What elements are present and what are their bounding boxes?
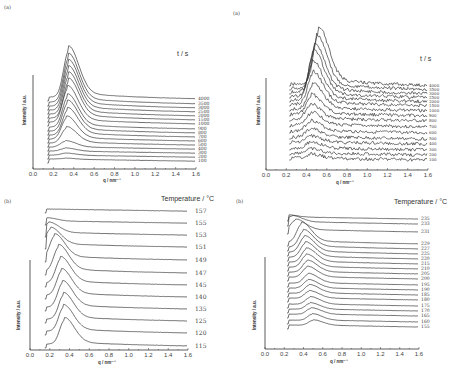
x-tick-label: 0.6 xyxy=(319,351,327,357)
series-line-400 xyxy=(47,141,195,152)
x-tick-label: 1.0 xyxy=(131,171,139,177)
x-tick-label: 0.4 xyxy=(299,351,307,357)
x-tick-label: 0.8 xyxy=(343,172,351,178)
y-axis-label: Intensity / a.u. xyxy=(16,300,21,330)
series-label: 231 xyxy=(421,229,430,234)
series-line-100 xyxy=(289,152,427,161)
x-tick-label: 0.6 xyxy=(90,171,98,177)
series-line-2500 xyxy=(47,66,195,114)
x-tick-label: 1.2 xyxy=(383,172,391,178)
x-tick-label: 0.6 xyxy=(85,352,93,358)
series-label: 400 xyxy=(429,141,437,146)
y-axis-label: Intensity / a.u. xyxy=(252,300,257,330)
x-tick-label: 0.8 xyxy=(105,352,113,358)
series-line-149 xyxy=(45,234,187,262)
x-tick-label: 0.2 xyxy=(280,351,288,357)
x-tick-label: 1.6 xyxy=(184,352,192,358)
series-line-135 xyxy=(45,281,187,312)
x-tick-label: 0.2 xyxy=(46,352,54,358)
series-label: 155 xyxy=(421,324,430,329)
series-line-600 xyxy=(47,116,195,143)
x-tick-label: 1.4 xyxy=(396,351,404,357)
x-tick-label: 1.6 xyxy=(424,172,432,178)
series-line-3000 xyxy=(47,59,195,110)
panel-label: (a) xyxy=(4,4,11,10)
series-label: 157 xyxy=(195,207,206,214)
series-line-1000 xyxy=(47,85,195,126)
series-line-229 xyxy=(287,222,418,246)
y-axis-label: Intensity / a.u. xyxy=(256,95,261,125)
series-line-185 xyxy=(287,284,418,297)
x-tick-label: 1.4 xyxy=(171,171,179,177)
series-line-155 xyxy=(287,320,418,329)
series-label: 800 xyxy=(429,118,437,123)
x-tick-label: 1.4 xyxy=(404,172,412,178)
legend-title: t / s xyxy=(177,50,188,57)
series-line-180 xyxy=(287,291,418,303)
series-line-175 xyxy=(287,297,418,309)
x-tick-label: 0.0 xyxy=(26,352,34,358)
series-label: 140 xyxy=(195,293,206,300)
panel-label: (a) xyxy=(233,10,240,16)
series-label: 100 xyxy=(429,157,437,162)
series-line-140 xyxy=(45,269,187,300)
legend-title: Temperature / °C xyxy=(161,195,214,202)
series-line-900 xyxy=(47,94,195,131)
series-line-195 xyxy=(287,273,418,287)
x-tick-label: 0.4 xyxy=(65,352,73,358)
x-tick-label: 0.8 xyxy=(338,351,346,357)
series-line-500 xyxy=(289,128,427,141)
series-line-157 xyxy=(45,209,187,213)
series-line-170 xyxy=(287,303,418,313)
y-axis-label: Intensity / a.u. xyxy=(22,95,27,125)
x-tick-label: 1.2 xyxy=(144,352,152,358)
series-label: 233 xyxy=(421,221,430,226)
x-tick-label: 0.0 xyxy=(262,172,270,178)
series-label: 135 xyxy=(195,305,206,312)
series-line-190 xyxy=(287,279,418,292)
x-tick-label: 0.2 xyxy=(282,172,290,178)
series-line-4000 xyxy=(47,46,195,101)
series-line-800 xyxy=(289,103,427,122)
series-label: 153 xyxy=(195,231,206,238)
x-axis-label: q / nm⁻¹ xyxy=(98,360,116,365)
series-line-2500 xyxy=(289,49,427,98)
x-tick-label: 1.4 xyxy=(164,352,172,358)
series-label: 165 xyxy=(421,313,430,318)
series-line-100 xyxy=(47,158,195,163)
x-tick-label: 0.2 xyxy=(49,171,57,177)
series-label: 115 xyxy=(195,342,206,349)
series-line-155 xyxy=(45,218,187,225)
series-line-2000 xyxy=(289,60,427,104)
x-axis-label: q / nm⁻¹ xyxy=(336,180,354,185)
x-tick-label: 0.4 xyxy=(302,172,310,178)
series-label: 600 xyxy=(429,130,437,135)
series-label: 125 xyxy=(195,317,206,324)
series-label: 155 xyxy=(195,219,206,226)
panel-label: (b) xyxy=(236,198,243,204)
x-tick-label: 0.8 xyxy=(110,171,118,177)
series-line-220 xyxy=(287,242,418,261)
series-line-231 xyxy=(287,219,418,234)
x-tick-label: 1.2 xyxy=(151,171,159,177)
legend-title: Temperature / °C xyxy=(394,198,447,205)
legend-title: t / s xyxy=(420,55,431,62)
x-tick-label: 1.2 xyxy=(376,351,384,357)
series-line-225 xyxy=(287,236,418,257)
series-label: 200 xyxy=(421,276,430,281)
x-axis-label: q / nm⁻¹ xyxy=(330,359,348,364)
x-tick-label: 0.6 xyxy=(323,172,331,178)
x-tick-label: 1.6 xyxy=(192,171,200,177)
x-tick-label: 0.0 xyxy=(261,351,269,357)
series-line-165 xyxy=(287,308,418,318)
series-label: 100 xyxy=(198,158,207,163)
x-tick-label: 1.0 xyxy=(363,172,371,178)
x-tick-label: 1.6 xyxy=(415,351,423,357)
series-label: 180 xyxy=(421,297,430,302)
series-label: 147 xyxy=(195,269,206,276)
x-tick-label: 0.4 xyxy=(70,171,78,177)
x-tick-label: 0.0 xyxy=(29,171,37,177)
series-line-215 xyxy=(287,248,418,266)
panel-label: (b) xyxy=(4,198,11,204)
series-label: 149 xyxy=(195,256,206,263)
